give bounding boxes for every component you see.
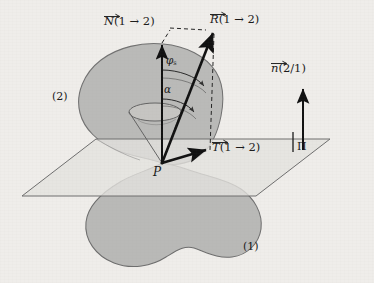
tangential-force-vector-label: T(1 → 2) (212, 142, 260, 154)
mechanics-contact-diagram (0, 0, 374, 283)
contact-point-label: P (153, 166, 161, 178)
friction-cone-angle-label: φs (166, 55, 177, 67)
unit-normal-vector-label: n(2/1) (271, 63, 306, 75)
force-inclination-angle-label: α (164, 84, 171, 95)
figure-canvas: N(1 → 2) R(1 → 2) n(2/1) T(1 → 2) Π P φs… (0, 0, 374, 283)
tangent-plane-label: Π (297, 141, 307, 152)
tangent-plane-shape (22, 139, 330, 196)
resultant-force-vector-label: R(1 → 2) (210, 14, 259, 26)
lower-body-label: (1) (243, 241, 259, 252)
normal-force-vector-label: N(1 → 2) (104, 16, 155, 28)
upper-body-label: (2) (52, 91, 68, 102)
